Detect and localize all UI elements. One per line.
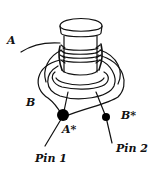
wire-a xyxy=(21,43,60,52)
pin-2-wire xyxy=(106,117,112,143)
coil-cap xyxy=(60,19,102,37)
label-a: A xyxy=(7,35,16,46)
coil-core xyxy=(59,36,102,72)
coil-flange xyxy=(52,70,108,89)
label-a-star: A* xyxy=(62,124,76,135)
label-b: B xyxy=(26,97,35,108)
label-b-star: B* xyxy=(121,110,136,121)
outer-winding-loops xyxy=(38,50,124,116)
coil-diagram: A B A* B* Pin 1 Pin 2 xyxy=(0,0,160,172)
terminal-b-star-dot xyxy=(102,113,110,121)
pin-1-wire xyxy=(45,116,63,146)
label-pin-1: Pin 1 xyxy=(35,153,67,164)
label-pin-2: Pin 2 xyxy=(116,143,148,154)
terminal-a-star-dot xyxy=(57,109,69,121)
